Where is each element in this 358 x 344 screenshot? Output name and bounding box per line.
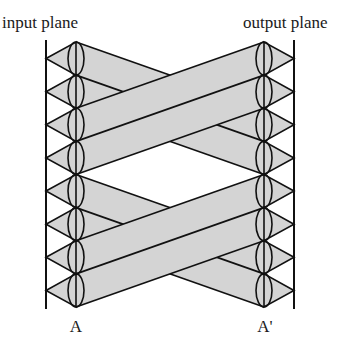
input-cone-0 bbox=[46, 42, 76, 75]
output-cone-1 bbox=[264, 75, 294, 108]
optical-interconnect-diagram: input plane output plane A A' bbox=[0, 0, 358, 344]
output-cone-5 bbox=[264, 208, 294, 241]
output-cone-7 bbox=[264, 274, 294, 307]
output-cone-3 bbox=[264, 141, 294, 174]
input-cone-3 bbox=[46, 141, 76, 174]
input-cone-7 bbox=[46, 274, 76, 307]
output-cone-2 bbox=[264, 108, 294, 141]
beam-bands bbox=[76, 42, 264, 307]
output-cone-0 bbox=[264, 42, 294, 75]
input-cone-2 bbox=[46, 108, 76, 141]
input-cone-5 bbox=[46, 208, 76, 241]
output-cone-4 bbox=[264, 175, 294, 208]
beam-diagram bbox=[0, 0, 358, 344]
input-cone-4 bbox=[46, 175, 76, 208]
output-cone-6 bbox=[264, 241, 294, 274]
input-cone-1 bbox=[46, 75, 76, 108]
input-cone-6 bbox=[46, 241, 76, 274]
